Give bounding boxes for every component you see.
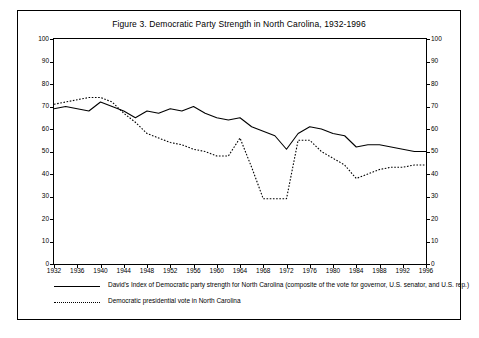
x-axis-tick-label: 1976 [297, 268, 323, 275]
x-axis-tick-mark [310, 265, 311, 268]
y-axis-tick-label-left: 60 [27, 126, 49, 133]
chart-legend: David's Index of Democratic party streng… [54, 279, 454, 311]
x-axis-tick-mark [170, 265, 171, 268]
y-axis-tick-mark [427, 107, 430, 108]
x-axis-tick-label: 1948 [134, 268, 160, 275]
chart-title: Figure 3. Democratic Party Strength in N… [18, 19, 460, 29]
x-axis-tick-mark [403, 265, 404, 268]
y-axis-tick-label-left: 80 [27, 81, 49, 88]
x-axis-tick-mark [77, 265, 78, 268]
y-axis-tick-label-left: 100 [27, 36, 49, 43]
x-axis-tick-label: 1932 [41, 268, 67, 275]
chart-lines [54, 39, 426, 264]
y-axis-tick-label-right: 70 [431, 103, 453, 110]
y-axis-tick-label-right: 0 [431, 261, 453, 268]
y-axis-tick-mark [427, 84, 430, 85]
x-axis-tick-mark [333, 265, 334, 268]
y-axis-tick-mark [427, 39, 430, 40]
x-axis-tick-label: 1980 [320, 268, 346, 275]
y-axis-tick-label-left: 10 [27, 238, 49, 245]
x-axis-tick-mark [240, 265, 241, 268]
y-axis-tick-mark [50, 219, 53, 220]
y-axis-tick-mark [50, 264, 53, 265]
y-axis-tick-mark [427, 264, 430, 265]
y-axis-tick-mark [50, 174, 53, 175]
x-axis-tick-label: 1984 [343, 268, 369, 275]
y-axis-tick-label-left: 30 [27, 193, 49, 200]
y-axis-tick-label-right: 50 [431, 148, 453, 155]
x-axis-tick-label: 1988 [367, 268, 393, 275]
y-axis-tick-mark [427, 219, 430, 220]
y-axis-tick-mark [427, 129, 430, 130]
x-axis-tick-mark [426, 265, 427, 268]
plot-area [53, 38, 427, 265]
y-axis-tick-mark [50, 197, 53, 198]
series-line-presidential-vote [54, 98, 426, 199]
y-axis-tick-mark [50, 62, 53, 63]
x-axis-tick-mark [217, 265, 218, 268]
y-axis-tick-mark [427, 62, 430, 63]
y-axis-tick-label-right: 40 [431, 171, 453, 178]
y-axis-tick-label-right: 60 [431, 126, 453, 133]
x-axis-tick-label: 1944 [111, 268, 137, 275]
x-axis-tick-mark [54, 265, 55, 268]
y-axis-tick-label-left: 0 [27, 261, 49, 268]
legend-line-sample-solid [54, 286, 100, 287]
y-axis-tick-mark [427, 242, 430, 243]
x-axis-tick-mark [263, 265, 264, 268]
x-axis-tick-label: 1992 [390, 268, 416, 275]
x-axis-tick-label: 1964 [227, 268, 253, 275]
y-axis-tick-label-left: 70 [27, 103, 49, 110]
y-axis-tick-label-left: 90 [27, 58, 49, 65]
x-axis-tick-label: 1972 [274, 268, 300, 275]
x-axis-tick-label: 1960 [204, 268, 230, 275]
legend-line-sample-dotted [54, 302, 100, 303]
y-axis-tick-label-right: 90 [431, 58, 453, 65]
legend-item: David's Index of Democratic party streng… [54, 279, 454, 295]
y-axis-tick-mark [50, 152, 53, 153]
y-axis-tick-mark [50, 242, 53, 243]
y-axis-tick-mark [50, 84, 53, 85]
x-axis-tick-label: 1956 [181, 268, 207, 275]
y-axis-tick-mark [50, 107, 53, 108]
y-axis-tick-label-right: 10 [431, 238, 453, 245]
x-axis-tick-label: 1936 [64, 268, 90, 275]
y-axis-tick-label-right: 20 [431, 216, 453, 223]
x-axis-tick-label: 1996 [413, 268, 439, 275]
y-axis-tick-mark [50, 129, 53, 130]
y-axis-tick-label-right: 80 [431, 81, 453, 88]
legend-label: David's Index of Democratic party streng… [108, 281, 469, 288]
x-axis-tick-label: 1968 [250, 268, 276, 275]
y-axis-tick-mark [50, 39, 53, 40]
y-axis-tick-label-right: 30 [431, 193, 453, 200]
x-axis-tick-mark [194, 265, 195, 268]
y-axis-tick-mark [427, 174, 430, 175]
figure-container: Figure 3. Democratic Party Strength in N… [17, 10, 461, 320]
x-axis-tick-mark [101, 265, 102, 268]
x-axis-tick-mark [147, 265, 148, 268]
legend-item: Democratic presidential vote in North Ca… [54, 295, 454, 311]
x-axis-tick-mark [287, 265, 288, 268]
x-axis-tick-mark [380, 265, 381, 268]
y-axis-tick-label-left: 20 [27, 216, 49, 223]
x-axis-tick-label: 1940 [88, 268, 114, 275]
x-axis-tick-label: 1952 [157, 268, 183, 275]
y-axis-tick-label-left: 50 [27, 148, 49, 155]
y-axis-tick-mark [427, 152, 430, 153]
y-axis-tick-label-right: 100 [431, 36, 453, 43]
series-line-davids-index [54, 102, 426, 152]
legend-label: Democratic presidential vote in North Ca… [108, 297, 241, 304]
x-axis-tick-mark [356, 265, 357, 268]
x-axis-tick-mark [124, 265, 125, 268]
y-axis-tick-mark [427, 197, 430, 198]
y-axis-tick-label-left: 40 [27, 171, 49, 178]
